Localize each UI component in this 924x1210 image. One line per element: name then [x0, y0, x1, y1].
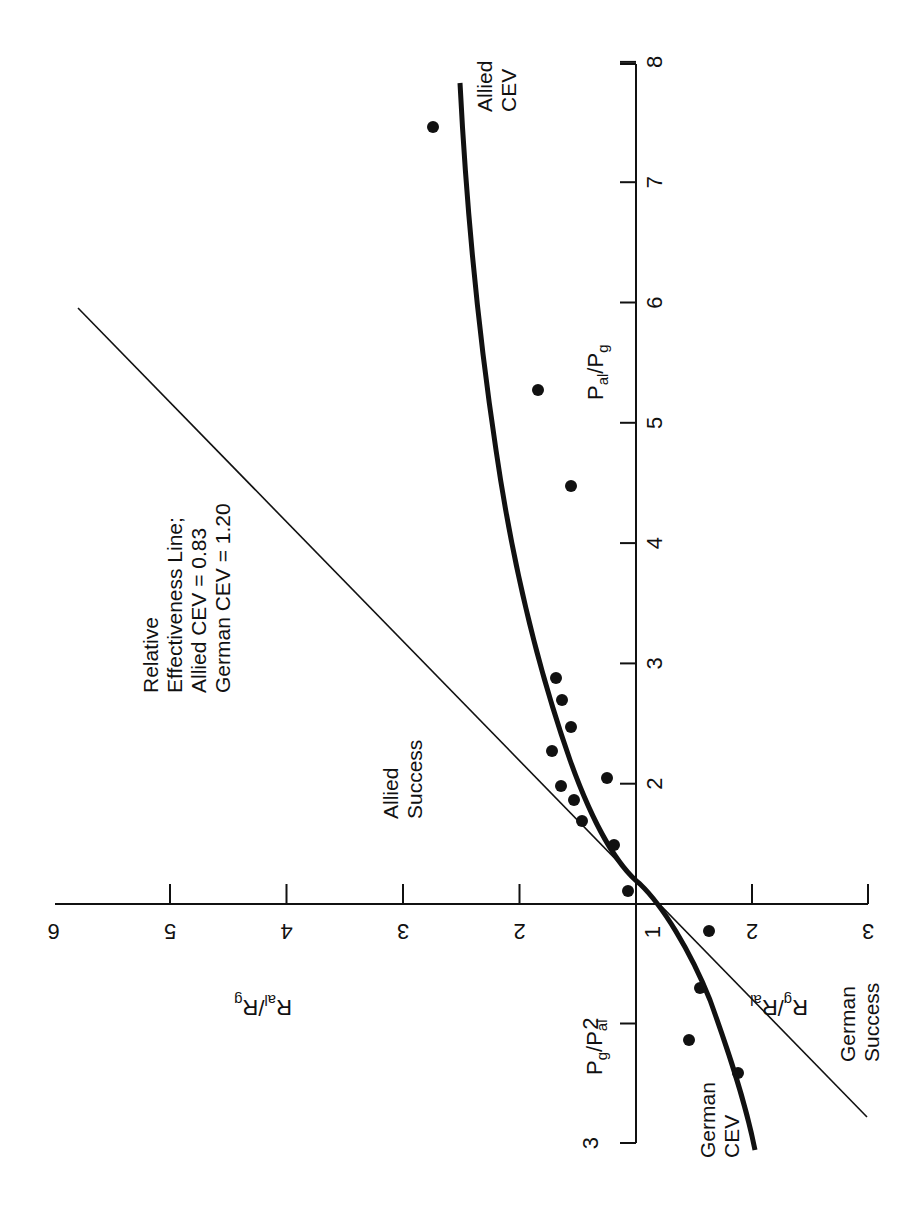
tick-label-r-g-r-al: 3 — [862, 919, 874, 944]
data-point — [550, 672, 562, 684]
relative-line-label: Relative Effectiveness Line; Allied CEV … — [139, 503, 234, 693]
data-point — [555, 780, 567, 792]
tick-label-r-al-r-g: 3 — [397, 919, 409, 944]
data-point — [694, 982, 706, 994]
tick-label-p-al-p-g: 5 — [642, 417, 667, 429]
tick-label-p-al-p-g: 6 — [642, 296, 667, 308]
tick-label-r-al-r-g: 5 — [164, 919, 176, 944]
german-success-label: German Success — [836, 980, 883, 1062]
tick-label-p-al-p-g: 4 — [642, 537, 667, 549]
data-point — [622, 885, 634, 897]
data-point — [703, 925, 715, 937]
data-point — [568, 794, 580, 806]
tick-label-r-al-r-g: 6 — [47, 919, 59, 944]
allied-cev-label: Allied CEV — [473, 55, 520, 112]
data-point — [576, 815, 588, 827]
tick-label-r-al-r-g: 4 — [280, 919, 292, 944]
axis-title-r-al-r-g: Ral/Rg — [234, 992, 292, 1020]
data-point — [732, 1067, 744, 1079]
german-cev-label: German CEV — [696, 1076, 743, 1158]
tick-label-p-al-p-g: 8 — [642, 56, 667, 68]
data-point — [556, 694, 568, 706]
data-point — [565, 721, 577, 733]
tick-label-origin: 1 — [640, 926, 665, 938]
tick-label-p-al-p-g: 2 — [642, 778, 667, 790]
data-point — [683, 1034, 695, 1046]
tick-label-p-g-p-al: 3 — [578, 1137, 603, 1149]
cev-chart: 23456782323456231 Pal/Pg Pg/Pal Ral/Rg R… — [0, 0, 924, 1210]
data-point — [601, 772, 613, 784]
data-point — [608, 839, 620, 851]
annotations: Relative Effectiveness Line; Allied CEV … — [139, 55, 883, 1158]
data-point — [532, 384, 544, 396]
data-point — [565, 480, 577, 492]
axis-title-p-al-p-g: Pal/Pg — [583, 344, 611, 400]
tick-marks — [170, 62, 868, 1143]
data-point — [427, 121, 439, 133]
allied-success-label: Allied Success — [379, 740, 426, 819]
tick-label-p-al-p-g: 7 — [642, 176, 667, 188]
axis-titles: Pal/Pg Pg/Pal Ral/Rg Rg/Ral — [234, 344, 808, 1075]
cev-curve — [460, 83, 755, 1150]
data-point — [546, 745, 558, 757]
tick-label-p-al-p-g: 3 — [642, 657, 667, 669]
relative-effectiveness-line — [78, 308, 867, 1117]
tick-label-r-g-r-al: 2 — [746, 919, 758, 944]
tick-label-r-al-r-g: 2 — [513, 919, 525, 944]
